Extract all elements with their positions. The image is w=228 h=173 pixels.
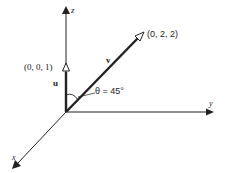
x-axis: [12, 112, 66, 169]
u-endpoint-label: (0, 0, 1): [24, 62, 53, 72]
u-vector-label: u: [53, 78, 58, 88]
y-axis: [66, 109, 214, 116]
vector-angle-diagram: z y x (0, 0, 1) u (0, 2, 2) v θ = 45°: [0, 0, 228, 173]
angle-label: θ = 45°: [95, 86, 124, 96]
y-axis-label: y: [208, 99, 213, 108]
angle-leader-line: [78, 93, 95, 97]
vector-u-arrowhead-icon: [63, 63, 70, 71]
vector-u: [63, 63, 70, 112]
angle-arc: [66, 94, 78, 100]
y-axis-arrowhead-icon: [206, 109, 214, 116]
z-axis-arrowhead-icon: [62, 6, 70, 14]
x-axis-label: x: [11, 153, 16, 162]
v-endpoint-label: (0, 2, 2): [147, 29, 178, 39]
v-vector-label: v: [106, 55, 111, 65]
z-axis-label: z: [70, 5, 75, 15]
